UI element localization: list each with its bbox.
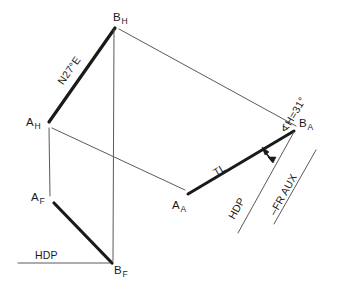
point-label-ah: AH — [26, 113, 40, 129]
angle-arrow — [262, 147, 276, 163]
projector-bh-ba — [119, 29, 296, 126]
projector-ah-af — [49, 128, 50, 196]
point-label-bf: BF — [114, 261, 127, 277]
line-af-bf — [54, 203, 112, 263]
projector-bh-bf — [113, 30, 114, 261]
projector-ah-aa — [52, 128, 185, 190]
engineering-drawing: AH BH AF BF AA BA N27°E TL ∢H=31° HDP HD… — [0, 0, 342, 293]
line-aa-ba — [188, 131, 294, 194]
point-label-ba: BA — [299, 114, 313, 130]
point-label-aa: AA — [172, 196, 186, 212]
point-label-bh: BH — [113, 8, 127, 24]
hdp-front-label: HDP — [35, 250, 58, 261]
point-label-af: AF — [31, 188, 44, 204]
